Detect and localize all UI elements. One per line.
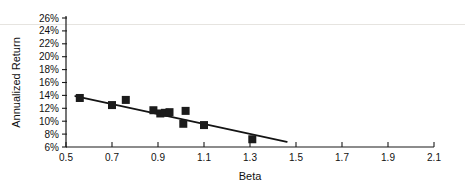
- data-point: [108, 101, 116, 109]
- y-tick-label: 20%: [39, 51, 59, 62]
- data-point: [200, 121, 208, 129]
- x-axis-title: Beta: [239, 170, 263, 182]
- x-tick-label: 0.9: [151, 152, 165, 163]
- data-point: [179, 120, 187, 128]
- x-tick-label: 1.3: [243, 152, 257, 163]
- y-tick-label: 8%: [45, 129, 60, 140]
- x-tick-label: 0.5: [59, 152, 73, 163]
- y-tick-label: 22%: [39, 38, 59, 49]
- y-axis-title: Annualized Return: [10, 37, 22, 128]
- y-tick-label: 24%: [39, 25, 59, 36]
- y-tick-label: 26%: [39, 13, 59, 24]
- chart-canvas: 6%8%10%12%14%16%18%20%22%24%26% 0.50.70.…: [0, 0, 465, 190]
- data-point: [122, 96, 130, 104]
- data-point: [76, 94, 84, 102]
- x-tick-label: 0.7: [105, 152, 119, 163]
- y-tick-label: 18%: [39, 64, 59, 75]
- data-point: [166, 108, 174, 116]
- data-point: [248, 135, 256, 143]
- x-tick-label: 2.1: [427, 152, 441, 163]
- x-tick-label: 1.7: [335, 152, 349, 163]
- scatter-chart: 6%8%10%12%14%16%18%20%22%24%26% 0.50.70.…: [0, 0, 465, 190]
- x-tick-label: 1.9: [381, 152, 395, 163]
- x-tick-label: 1.5: [289, 152, 303, 163]
- y-tick-label: 12%: [39, 103, 59, 114]
- x-tick-label: 1.1: [197, 152, 211, 163]
- y-tick-label: 10%: [39, 116, 59, 127]
- data-point: [182, 107, 190, 115]
- y-tick-label: 16%: [39, 77, 59, 88]
- y-tick-label: 14%: [39, 90, 59, 101]
- data-point: [149, 106, 157, 114]
- y-tick-label: 6%: [45, 142, 60, 153]
